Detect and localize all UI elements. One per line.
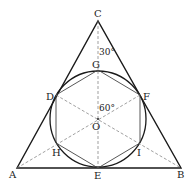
label-f: F xyxy=(143,91,150,102)
dashed-line-d-to-b xyxy=(56,95,181,168)
label-g: G xyxy=(92,59,100,70)
triangle-abc xyxy=(17,21,181,168)
label-i: I xyxy=(137,147,141,158)
label-b: B xyxy=(177,169,184,180)
angle-label-30: 30° xyxy=(99,47,115,57)
angle-label-60: 60° xyxy=(99,103,115,113)
label-h: H xyxy=(52,147,61,158)
label-e: E xyxy=(94,170,101,181)
center-point-o xyxy=(97,118,99,120)
dashed-lines xyxy=(17,21,181,168)
label-d: D xyxy=(46,91,54,102)
label-o: O xyxy=(92,121,100,132)
label-a: A xyxy=(8,169,17,180)
dashed-line-df-to-a xyxy=(17,95,140,168)
label-c: C xyxy=(94,8,102,19)
geometry-diagram: C 30° G D F 60° O H I A E B xyxy=(0,0,192,185)
